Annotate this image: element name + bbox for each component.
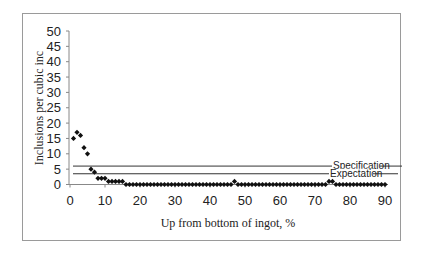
y-tick-label: 15 (47, 131, 61, 146)
data-point-diamond (228, 182, 233, 187)
y-axis-title: Inclusions per cubic inc (32, 51, 46, 165)
x-tick-label: 40 (203, 193, 217, 208)
y-tick-label: 20 (47, 116, 61, 131)
data-point-diamond (330, 179, 335, 184)
x-tick-label: 50 (238, 193, 252, 208)
x-tick-label: 70 (308, 193, 322, 208)
x-axis: 0102030405060708090 (66, 185, 392, 209)
data-point-diamond (323, 182, 328, 187)
x-tick-label: 60 (273, 193, 287, 208)
y-tick-label: 5 (54, 162, 61, 177)
data-point-diamond (74, 130, 79, 135)
y-axis: 05101520253035404550 (47, 24, 69, 193)
y-tick-label: 45 (47, 39, 61, 54)
data-point-diamond (88, 167, 93, 172)
data-point-diamond (120, 179, 125, 184)
y-tick-label: 0 (54, 177, 61, 192)
data-point-diamond (382, 182, 387, 187)
x-tick-label: 30 (168, 193, 182, 208)
y-tick-label: 40 (47, 54, 61, 69)
data-point-diamond (78, 133, 83, 138)
y-tick-label: 10 (47, 146, 61, 161)
y-tick-label: 35 (47, 70, 61, 85)
x-axis-title: Up from bottom of ingot, % (161, 216, 296, 230)
x-tick-label: 80 (343, 193, 357, 208)
y-tick-label: 25 (47, 100, 61, 115)
data-point-diamond (232, 179, 237, 184)
x-tick-label: 20 (133, 193, 147, 208)
reference-line-label: Expectation (330, 168, 382, 179)
x-tick-label: 90 (378, 193, 392, 208)
y-tick-label: 30 (47, 85, 61, 100)
data-point-diamond (71, 136, 76, 141)
scatter-chart: 05101520253035404550 0102030405060708090… (0, 0, 422, 254)
x-tick-label: 0 (66, 193, 73, 208)
data-point-diamond (85, 151, 90, 156)
reference-lines: SpecificationExpectation (73, 160, 402, 179)
data-point-diamond (102, 176, 107, 181)
x-tick-label: 10 (98, 193, 112, 208)
data-point-diamond (81, 145, 86, 150)
y-tick-label: 50 (47, 24, 61, 39)
